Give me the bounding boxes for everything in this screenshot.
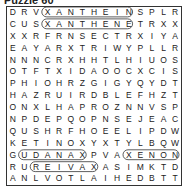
grid-cell[interactable]: E bbox=[123, 173, 135, 185]
grid-cell[interactable]: H bbox=[42, 126, 54, 138]
grid-cell[interactable]: E bbox=[42, 114, 54, 126]
grid-cell[interactable]: S bbox=[169, 55, 181, 67]
grid-cell[interactable]: T bbox=[169, 78, 181, 90]
grid-cell[interactable]: E bbox=[111, 126, 123, 138]
grid-cell[interactable]: E bbox=[42, 162, 54, 174]
grid-cell[interactable]: H bbox=[88, 7, 100, 19]
grid-cell[interactable]: W bbox=[111, 43, 123, 55]
grid-cell[interactable]: N bbox=[65, 31, 77, 43]
grid-cell[interactable]: X bbox=[42, 19, 54, 31]
grid-cell[interactable]: P bbox=[77, 102, 89, 114]
grid-cell[interactable]: L bbox=[123, 126, 135, 138]
grid-cell[interactable]: A bbox=[88, 173, 100, 185]
grid-cell[interactable]: A bbox=[77, 162, 89, 174]
grid-cell[interactable]: O bbox=[7, 66, 19, 78]
grid-cell[interactable]: C bbox=[7, 19, 19, 31]
grid-cell[interactable]: P bbox=[146, 126, 158, 138]
grid-cell[interactable]: D bbox=[77, 66, 89, 78]
grid-cell[interactable]: B bbox=[100, 90, 112, 102]
grid-cell[interactable]: G bbox=[7, 150, 19, 162]
grid-cell[interactable]: A bbox=[53, 19, 65, 31]
grid-cell[interactable]: Y bbox=[88, 138, 100, 150]
grid-cell[interactable]: A bbox=[19, 90, 31, 102]
grid-cell[interactable]: D bbox=[158, 126, 170, 138]
grid-cell[interactable]: P bbox=[88, 114, 100, 126]
grid-cell[interactable]: T bbox=[158, 162, 170, 174]
grid-cell[interactable]: N bbox=[53, 150, 65, 162]
grid-cell[interactable]: H bbox=[77, 126, 89, 138]
grid-cell[interactable]: B bbox=[146, 173, 158, 185]
grid-cell[interactable]: T bbox=[77, 19, 89, 31]
grid-cell[interactable]: I bbox=[53, 162, 65, 174]
grid-cell[interactable]: T bbox=[77, 7, 89, 19]
grid-cell[interactable]: Y bbox=[123, 43, 135, 55]
grid-cell[interactable]: X bbox=[135, 31, 147, 43]
grid-cell[interactable]: Q bbox=[65, 114, 77, 126]
grid-cell[interactable]: E bbox=[19, 138, 31, 150]
grid-cell[interactable]: F bbox=[30, 66, 42, 78]
grid-cell[interactable]: D bbox=[30, 150, 42, 162]
grid-cell[interactable]: N bbox=[123, 7, 135, 19]
grid-cell[interactable]: A bbox=[42, 43, 54, 55]
grid-cell[interactable]: T bbox=[65, 173, 77, 185]
grid-cell[interactable]: R bbox=[30, 31, 42, 43]
grid-cell[interactable]: H bbox=[53, 102, 65, 114]
grid-cell[interactable]: I bbox=[158, 66, 170, 78]
grid-cell[interactable]: P bbox=[53, 114, 65, 126]
grid-cell[interactable]: H bbox=[77, 55, 89, 67]
grid-cell[interactable]: Y bbox=[146, 78, 158, 90]
grid-cell[interactable]: S bbox=[135, 7, 147, 19]
grid-cell[interactable]: X bbox=[65, 43, 77, 55]
grid-cell[interactable]: I bbox=[100, 173, 112, 185]
grid-cell[interactable]: U bbox=[19, 162, 31, 174]
grid-cell[interactable]: Y bbox=[30, 43, 42, 55]
grid-cell[interactable]: H bbox=[88, 55, 100, 67]
grid-cell[interactable]: Z bbox=[158, 90, 170, 102]
grid-cell[interactable]: W bbox=[169, 126, 181, 138]
grid-cell[interactable]: N bbox=[111, 19, 123, 31]
grid-cell[interactable]: R bbox=[53, 31, 65, 43]
grid-cell[interactable]: O bbox=[100, 66, 112, 78]
grid-cell[interactable]: Y bbox=[123, 78, 135, 90]
grid-cell[interactable]: X bbox=[7, 31, 19, 43]
grid-cell[interactable]: L bbox=[111, 90, 123, 102]
grid-cell[interactable]: A bbox=[7, 173, 19, 185]
grid-cell[interactable]: R bbox=[88, 102, 100, 114]
grid-cell[interactable]: A bbox=[65, 150, 77, 162]
grid-cell[interactable]: X bbox=[42, 7, 54, 19]
grid-cell[interactable]: R bbox=[19, 7, 31, 19]
grid-cell[interactable]: T bbox=[135, 19, 147, 31]
grid-cell[interactable]: T bbox=[169, 90, 181, 102]
grid-cell[interactable]: G bbox=[88, 78, 100, 90]
grid-cell[interactable]: T bbox=[158, 173, 170, 185]
grid-cell[interactable]: I bbox=[65, 90, 77, 102]
grid-cell[interactable]: T bbox=[77, 43, 89, 55]
grid-cell[interactable]: X bbox=[65, 55, 77, 67]
grid-cell[interactable]: D bbox=[30, 114, 42, 126]
grid-cell[interactable]: E bbox=[100, 19, 112, 31]
grid-cell[interactable]: R bbox=[53, 43, 65, 55]
grid-cell[interactable]: V bbox=[146, 102, 158, 114]
grid-cell[interactable]: C bbox=[42, 55, 54, 67]
grid-cell[interactable]: L bbox=[158, 43, 170, 55]
grid-cell[interactable]: N bbox=[19, 173, 31, 185]
grid-cell[interactable]: X bbox=[100, 138, 112, 150]
grid-cell[interactable]: L bbox=[77, 173, 89, 185]
grid-cell[interactable]: S bbox=[169, 66, 181, 78]
grid-cell[interactable]: L bbox=[146, 43, 158, 55]
grid-cell[interactable]: I bbox=[30, 78, 42, 90]
grid-cell[interactable]: R bbox=[65, 78, 77, 90]
grid-cell[interactable]: X bbox=[135, 66, 147, 78]
grid-cell[interactable]: N bbox=[146, 150, 158, 162]
grid-cell[interactable]: I bbox=[111, 7, 123, 19]
grid-cell[interactable]: A bbox=[169, 31, 181, 43]
grid-cell[interactable]: P bbox=[88, 150, 100, 162]
grid-cell[interactable]: H bbox=[123, 55, 135, 67]
grid-cell[interactable]: U bbox=[53, 90, 65, 102]
grid-cell[interactable]: N bbox=[30, 55, 42, 67]
grid-cell[interactable]: W bbox=[169, 138, 181, 150]
grid-cell[interactable]: B bbox=[146, 138, 158, 150]
grid-cell[interactable]: Y bbox=[123, 138, 135, 150]
grid-cell[interactable]: L bbox=[42, 102, 54, 114]
grid-cell[interactable]: V bbox=[42, 173, 54, 185]
